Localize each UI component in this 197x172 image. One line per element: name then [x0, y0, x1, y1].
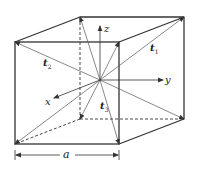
z-axis-label: z [104, 24, 109, 34]
x-axis-label: x [45, 97, 51, 107]
cube-diagram: z y x t1 t2 t3 a [0, 0, 197, 172]
axes [54, 26, 163, 98]
cube-drawing [0, 0, 197, 172]
x-axis [54, 80, 100, 98]
t3-label: t3 [100, 101, 108, 113]
y-axis-label: y [165, 75, 171, 85]
edge-length-label: a [63, 149, 70, 160]
t2-label: t2 [43, 58, 51, 70]
t1-label: t1 [150, 43, 158, 55]
